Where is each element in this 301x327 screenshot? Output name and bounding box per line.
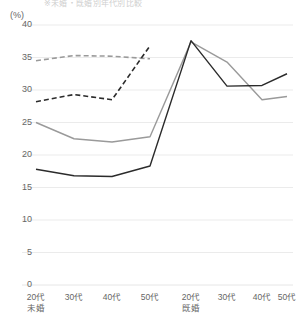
x-axis-group-label: 未婚 — [21, 303, 51, 313]
y-axis-tick-label: 25 — [2, 118, 32, 127]
x-axis-category-label: 30代 — [59, 292, 89, 302]
x-axis-labels: 20代30代40代50代未婚20代30代40代50代既婚 — [0, 292, 301, 324]
series-line — [36, 42, 287, 142]
y-axis-tick-label: 15 — [2, 183, 32, 192]
y-axis-tick-label: 10 — [2, 215, 32, 224]
y-axis-tick-label: 0 — [2, 280, 32, 289]
x-axis-category-label: 30代 — [212, 292, 242, 302]
series-line — [36, 46, 150, 102]
chart-container: ※未婚・既婚別年代別比較 (%) 4035302520151050 20代30代… — [0, 0, 301, 327]
plot-area — [0, 0, 301, 327]
series-line — [36, 56, 150, 61]
y-axis-tick-label: 40 — [2, 20, 32, 29]
x-axis-group-label: 既婚 — [176, 303, 206, 313]
x-axis-category-label: 20代 — [21, 292, 51, 302]
x-axis-category-label: 40代 — [97, 292, 127, 302]
x-axis-category-label: 50代 — [272, 292, 301, 302]
x-axis-category-label: 50代 — [135, 292, 165, 302]
y-axis-tick-label: 35 — [2, 53, 32, 62]
y-axis-tick-label: 30 — [2, 85, 32, 94]
y-axis-tick-label: 5 — [2, 248, 32, 257]
y-axis-tick-label: 20 — [2, 150, 32, 159]
x-axis-category-label: 20代 — [176, 292, 206, 302]
chart-svg — [0, 0, 301, 327]
